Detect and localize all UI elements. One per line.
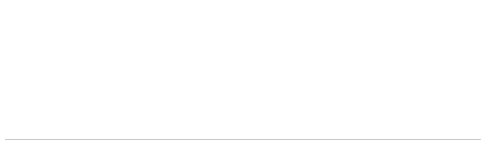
timeline-chart: [0, 0, 490, 166]
timeline-axis-line: [5, 139, 481, 140]
